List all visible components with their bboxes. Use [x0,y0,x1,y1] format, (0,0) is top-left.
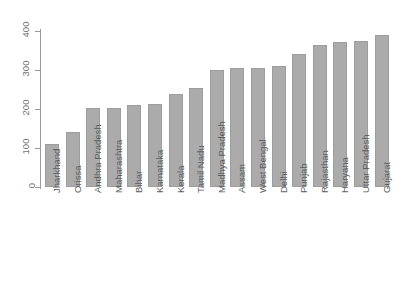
x-axis-label-text: Maharashtra [114,140,124,193]
x-axis-label: Punjab [292,189,306,281]
x-axis-label: Madhya Pradesh [210,189,224,281]
x-axis-label: Bihar [127,189,141,281]
x-axis-label: Andhra Pradesh [86,189,100,281]
x-axis-label-text: Karnataka [155,150,165,193]
x-axis-labels: JharkhandOrissaAndhra PradeshMaharashtra… [41,189,401,285]
y-axis-tick-label: 100 [0,141,34,152]
y-axis-tick-label-text: 200 [21,100,32,116]
y-axis-tick-label-text: 300 [21,61,32,77]
x-axis-label: Rajasthan [313,189,327,281]
x-axis-label: Delhi [272,189,286,281]
x-axis-label-text: Assam [237,164,247,193]
bar-chart: 0100200300400 JharkhandOrissaAndhra Prad… [0,0,406,285]
x-axis-label-text: Gujarat [382,162,392,193]
x-axis-label: Gujarat [375,189,389,281]
x-axis-label: West Bengal [251,189,265,281]
x-axis-label-text: Jharkhand [52,149,62,193]
y-axis-tick-label-text: 400 [21,22,32,38]
y-axis-tick [35,148,40,149]
x-axis-label-text: Kerala [176,166,186,193]
x-axis-label: Tamil Nadu [189,189,203,281]
y-axis-tick [35,70,40,71]
x-axis-label: Karnataka [148,189,162,281]
y-axis-tick-label-text: 100 [21,139,32,155]
y-axis-tick-label-text: 0 [26,183,37,188]
y-axis-tick-label: 0 [0,180,34,191]
x-axis-label-text: Orissa [73,166,83,193]
x-axis-label: Uttar Pradesh [354,189,368,281]
x-axis-label: Assam [230,189,244,281]
y-axis-tick [35,31,40,32]
x-axis-label-text: Madhya Pradesh [217,121,227,193]
x-axis-label: Haryana [333,189,347,281]
x-axis-label-text: Rajasthan [320,150,330,193]
x-axis-label-text: Uttar Pradesh [361,134,371,193]
x-axis-label: Jharkhand [45,189,59,281]
y-axis-tick-label: 400 [0,24,34,35]
x-axis-label: Maharashtra [107,189,121,281]
x-axis-label-text: West Bengal [258,139,268,193]
x-axis-label-text: Tamil Nadu [196,145,206,193]
x-axis-label-text: Punjab [299,163,309,193]
x-axis-label-text: Delhi [279,171,289,193]
y-axis-tick [35,109,40,110]
x-axis-label-text: Andhra Pradesh [93,124,103,193]
x-axis-label-text: Haryana [340,157,350,193]
y-axis-tick-label: 200 [0,102,34,113]
y-axis-tick-label: 300 [0,63,34,74]
bar [272,66,286,187]
x-axis-label: Orissa [66,189,80,281]
x-axis-label-text: Bihar [134,171,144,193]
x-axis-label: Kerala [169,189,183,281]
